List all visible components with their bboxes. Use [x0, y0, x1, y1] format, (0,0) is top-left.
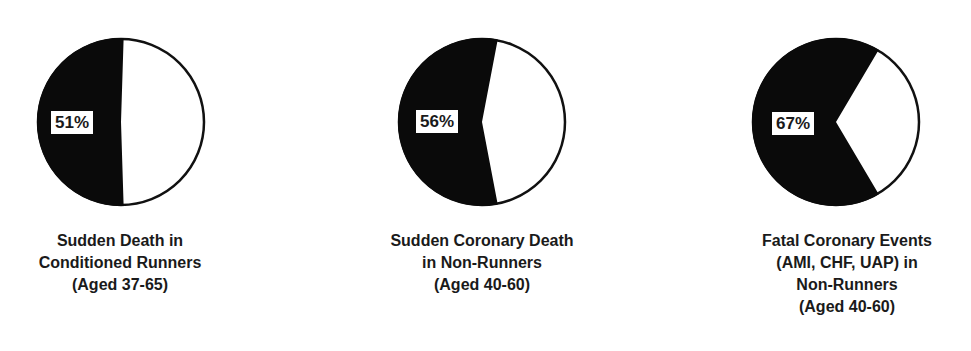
caption-line: (Aged 40-60)	[722, 296, 971, 318]
pie-1-percent-label: 51%	[51, 111, 93, 134]
caption-line: Non-Runners	[722, 274, 971, 296]
caption-line: Sudden Coronary Death	[357, 230, 607, 252]
caption-line: Sudden Death in	[0, 230, 240, 252]
pie-2-caption: Sudden Coronary Death in Non-Runners (Ag…	[357, 230, 607, 296]
caption-line: (Aged 37-65)	[0, 274, 240, 296]
pie-chart-1: 51%	[35, 36, 207, 208]
caption-line: (Aged 40-60)	[357, 274, 607, 296]
caption-line: in Non-Runners	[357, 252, 607, 274]
pie-3-percent-label: 67%	[772, 112, 814, 135]
caption-line: Fatal Coronary Events	[722, 230, 971, 252]
pie-2-percent-label: 56%	[416, 110, 458, 133]
pie-1-caption: Sudden Death in Conditioned Runners (Age…	[0, 230, 240, 296]
caption-line: (AMI, CHF, UAP) in	[722, 252, 971, 274]
caption-line: Conditioned Runners	[0, 252, 240, 274]
pie-3-caption: Fatal Coronary Events (AMI, CHF, UAP) in…	[722, 230, 971, 318]
pie-chart-3: 67%	[750, 36, 922, 208]
pie-chart-2: 56%	[396, 36, 568, 208]
